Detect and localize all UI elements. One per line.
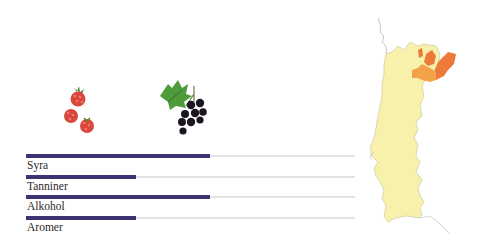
portugal-map [360, 12, 484, 240]
bar-row-alkohol: Alkohol [26, 195, 355, 216]
bar-fill [26, 154, 210, 158]
bar-row-tanniner: Tanniner [26, 175, 355, 196]
bar-label: Aromer [27, 220, 63, 234]
bar-row-syra: Syra [26, 154, 355, 175]
bar-label: Tanniner [27, 179, 68, 193]
taste-profile-bars: Syra Tanniner Alkohol Aromer [26, 154, 355, 236]
raspberry-icon [58, 82, 102, 138]
bar-label: Alkohol [27, 199, 65, 213]
bar-label: Syra [27, 158, 48, 172]
bar-row-aromer: Aromer [26, 216, 355, 237]
blackcurrant-icon [156, 76, 214, 138]
